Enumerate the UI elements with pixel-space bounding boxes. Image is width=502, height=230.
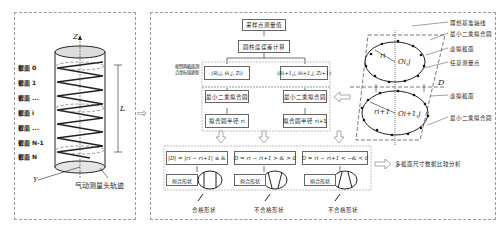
result-1: 合格形状 bbox=[192, 206, 216, 214]
label-virtual-section-top: 虚拟截面 bbox=[450, 45, 474, 53]
condition-formula-3: D = ri − ri+1 < −& < 0 bbox=[302, 151, 368, 165]
fit-circle-left: 最小二乘拟合圆 bbox=[205, 90, 249, 103]
fit-shape-3: 拟合形状 bbox=[304, 174, 336, 186]
label-virtual-section-bottom: 虚拟截面 bbox=[450, 92, 474, 100]
step-sample-measurement: 采样点测量值 bbox=[242, 19, 286, 31]
analysis-label: 多截面尺寸数据比较分析 bbox=[395, 160, 461, 168]
fit-shape-2: 拟合形状 bbox=[234, 174, 266, 186]
fit-shape-1: 拟合形状 bbox=[166, 174, 198, 186]
lower-radius: ri+1 bbox=[374, 108, 390, 116]
coord-right: (Ri+1,j, θi+1,j, Zi+1) bbox=[280, 66, 328, 80]
label-lsq-circle-top: 最小二乘拟合圆 bbox=[450, 30, 492, 38]
flow-connectors bbox=[0, 0, 502, 230]
coord-left: (Ri,j, θi,j, Zi) bbox=[204, 66, 250, 80]
result-2: 不合格形状 bbox=[254, 206, 284, 214]
condition-formula-2: D = ri − ri+1 > & > 0 bbox=[234, 151, 296, 165]
condition-formula-1: |D| = |ri − ri+1| ≤ & bbox=[166, 151, 228, 165]
radius-left: 拟合圆半径 ri bbox=[205, 114, 249, 128]
label-lsq-circle-bottom: 最小二乘拟合圆 bbox=[450, 114, 492, 122]
lower-center: Oi+1,j bbox=[398, 110, 421, 118]
fit-circle-right: 最小二乘拟合圆 bbox=[283, 90, 327, 103]
label-measurement-point: 任意测量点 bbox=[450, 59, 480, 67]
label-d: D bbox=[438, 78, 444, 87]
result-3: 不合格形状 bbox=[328, 206, 358, 214]
radius-right: 拟合圆半径 ri+1 bbox=[283, 114, 327, 128]
step-cylindricity-calc: 圆柱度误差计算 bbox=[238, 40, 290, 53]
upper-radius: ri bbox=[380, 52, 386, 60]
label-ideal-axis: 理想基准轴线 bbox=[450, 19, 486, 27]
upper-center: Oi,j bbox=[398, 58, 410, 66]
side-note: 相邻两截面测点坐标值更新 bbox=[175, 64, 201, 76]
